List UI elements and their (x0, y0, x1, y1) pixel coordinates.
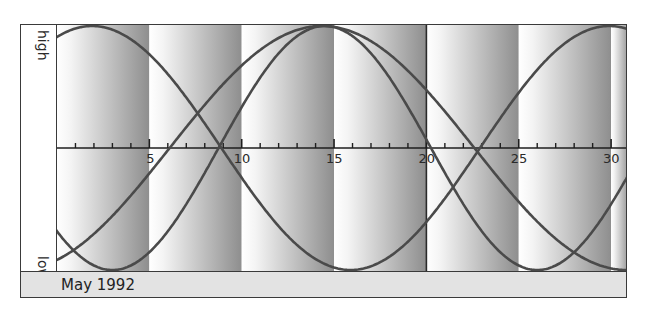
x-tick-label: 15 (326, 151, 343, 166)
y-axis-labels: high low (20, 24, 57, 271)
x-tick-label: 30 (603, 151, 620, 166)
y-label-high: high (35, 30, 51, 61)
month-label: May 1992 (61, 276, 135, 294)
x-tick-label: 25 (511, 151, 528, 166)
x-tick-label: 10 (234, 151, 251, 166)
footer-bar: May 1992 (20, 271, 627, 298)
x-tick-label: 5 (146, 151, 154, 166)
